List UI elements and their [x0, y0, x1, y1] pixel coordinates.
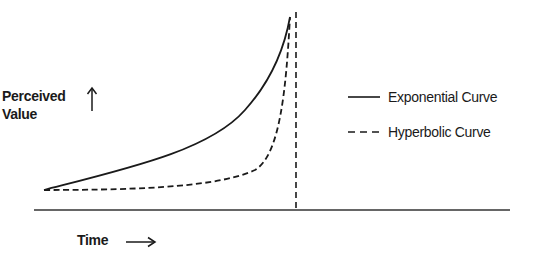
dashed-line-swatch-icon — [348, 127, 380, 137]
exponential-curve — [44, 17, 290, 190]
y-axis-label: Perceived Value — [2, 87, 65, 123]
legend-label-hyperbolic: Hyperbolic Curve — [388, 124, 491, 140]
x-axis-label: Time — [77, 232, 108, 248]
legend-item-exponential: Exponential Curve — [348, 89, 497, 105]
up-arrow-icon — [86, 86, 98, 112]
right-arrow-icon — [125, 236, 157, 248]
y-axis-label-line2: Value — [2, 105, 65, 123]
hyperbolic-curve — [44, 17, 290, 190]
legend-item-hyperbolic: Hyperbolic Curve — [348, 124, 491, 140]
legend-label-exponential: Exponential Curve — [388, 89, 497, 105]
solid-line-swatch-icon — [348, 92, 380, 102]
y-axis-label-line1: Perceived — [2, 87, 65, 105]
